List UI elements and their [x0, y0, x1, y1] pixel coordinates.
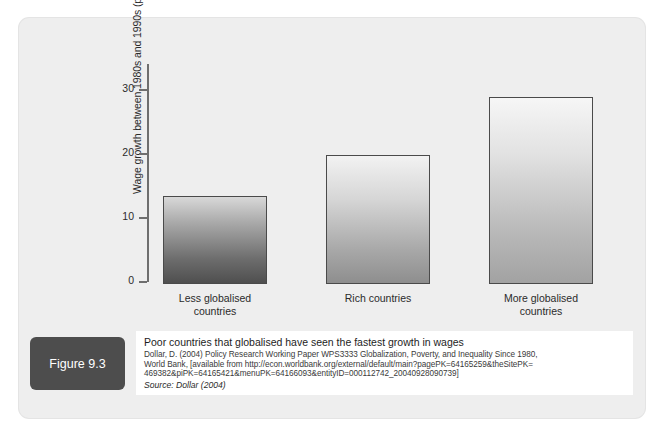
bar-3: [489, 97, 593, 284]
plot-area: Wage growth between 1980s and 1990s (per…: [99, 54, 621, 316]
x-category-label: Less globalisedcountries: [151, 292, 279, 318]
y-tick-mark: [139, 153, 147, 155]
caption-reference-line-1: Dollar, D. (2004) Policy Research Workin…: [144, 350, 625, 360]
caption-box: Poor countries that globalised have seen…: [136, 331, 633, 395]
x-category-label-line: Less globalised: [151, 292, 279, 305]
y-tick-0: 0: [139, 281, 147, 283]
x-category-label-line: Rich countries: [314, 292, 442, 305]
bar-slot: More globalisedcountries: [489, 66, 593, 284]
y-tick-label: 20: [122, 146, 134, 158]
caption-source: Source: Dollar (2004): [144, 380, 625, 391]
y-tick-label: 30: [122, 82, 134, 94]
y-tick-label: 10: [122, 210, 134, 222]
bar-group: Less globalisedcountriesRich countriesMo…: [149, 64, 619, 284]
x-category-label-line: More globalised: [477, 292, 605, 305]
bar-2: [326, 155, 430, 284]
y-tick-label: 0: [128, 274, 134, 286]
bar-slot: Less globalisedcountries: [163, 66, 267, 284]
y-tick-10: 10: [139, 217, 147, 219]
y-axis-title: Wage growth between 1980s and 1990s (per…: [131, 0, 145, 194]
figure-number-badge: Figure 9.3: [30, 337, 125, 390]
y-tick-20: 20: [139, 153, 147, 155]
x-category-label-line: countries: [151, 305, 279, 318]
caption-reference-line-2: World Bank, [available from http://econ.…: [144, 360, 625, 370]
bar-1: [163, 196, 267, 284]
y-tick-30: 30: [139, 89, 147, 91]
x-category-label: Rich countries: [314, 292, 442, 305]
x-category-label-line: countries: [477, 305, 605, 318]
bar-slot: Rich countries: [326, 66, 430, 284]
y-tick-mark: [139, 217, 147, 219]
figure-number-label: Figure 9.3: [49, 357, 105, 371]
caption-reference-line-3: 469382&piPK=64165421&menuPK=64166093&ent…: [144, 369, 625, 379]
x-category-label: More globalisedcountries: [477, 292, 605, 318]
figure-root: Wage growth between 1980s and 1990s (per…: [0, 0, 662, 436]
y-tick-mark: [139, 281, 147, 283]
caption-title: Poor countries that globalised have seen…: [144, 336, 625, 349]
y-tick-mark: [139, 89, 147, 91]
